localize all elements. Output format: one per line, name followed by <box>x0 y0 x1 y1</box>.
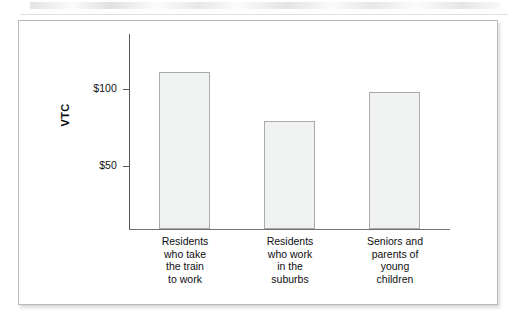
bar-seniors-parents <box>369 92 420 229</box>
category-label-0-line-0: Residents <box>133 235 237 248</box>
category-label-2-line-0: Seniors and <box>343 235 447 248</box>
scan-hairline <box>20 14 508 15</box>
category-label-1-line-3: suburbs <box>238 273 342 286</box>
scan-artifact-top <box>30 2 500 9</box>
category-label-1-line-0: Residents <box>238 235 342 248</box>
y-axis-title: VTC <box>59 103 71 126</box>
category-label-0: Residents who take the train to work <box>133 235 237 285</box>
chart-frame: VTC $100 $50 Residents who take the trai… <box>18 20 498 305</box>
bars-layer <box>129 21 450 230</box>
bar-residents-train <box>159 72 210 229</box>
category-label-0-line-2: the train <box>133 260 237 273</box>
category-label-2-line-1: parents of <box>343 248 447 261</box>
bar-residents-suburbs <box>264 121 315 229</box>
category-label-1-line-1: who work <box>238 248 342 261</box>
category-label-0-line-3: to work <box>133 273 237 286</box>
category-label-1: Residents who work in the suburbs <box>238 235 342 285</box>
category-label-0-line-1: who take <box>133 248 237 261</box>
category-labels: Residents who take the train to work Res… <box>129 235 450 303</box>
y-tick-label-50: $50 <box>63 159 117 171</box>
category-label-2-line-3: children <box>343 273 447 286</box>
category-label-1-line-2: in the <box>238 260 342 273</box>
y-tick-label-100: $100 <box>63 82 117 94</box>
bar-chart-plot: VTC $100 $50 Residents who take the trai… <box>19 21 499 306</box>
category-label-2-line-2: young <box>343 260 447 273</box>
category-label-2: Seniors and parents of young children <box>343 235 447 285</box>
